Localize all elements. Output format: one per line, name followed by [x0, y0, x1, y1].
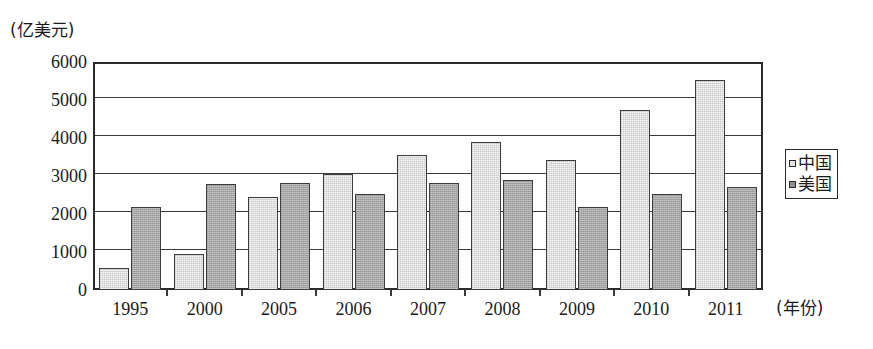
y-axis-tick-label: 6000: [13, 53, 87, 71]
x-axis-tick-label: 2005: [261, 300, 297, 318]
x-axis-tick-label: 2008: [484, 300, 520, 318]
x-axis-tick-label: 1995: [112, 300, 148, 318]
x-axis-tick-mark: [688, 290, 690, 296]
bar-chart-figure: (亿美元) 0100020003000400050006000 19952000…: [0, 0, 873, 349]
gridline: [95, 249, 761, 250]
x-axis-tick-mark: [241, 290, 243, 296]
legend-item-美国: 美国: [789, 174, 832, 195]
x-axis-tick-label: 2010: [633, 300, 669, 318]
x-axis-tick-mark: [390, 290, 392, 296]
y-axis-tick-label: 3000: [13, 167, 87, 185]
chart-legend: 中国美国: [785, 149, 838, 199]
y-axis-tick-label: 2000: [13, 205, 87, 223]
y-axis-tick-label: 1000: [13, 243, 87, 261]
x-axis-tick-mark: [539, 290, 541, 296]
x-axis-tick-label: 2009: [559, 300, 595, 318]
x-axis-tick-mark: [315, 290, 317, 296]
x-axis-tick-label: 2011: [708, 300, 743, 318]
x-axis-unit-label: (年份): [776, 300, 823, 317]
plot-area: [93, 62, 763, 290]
y-axis-tick-labels: 0100020003000400050006000: [9, 62, 87, 290]
legend-item-中国: 中国: [789, 153, 832, 174]
x-axis-tick-label: 2007: [410, 300, 446, 318]
gridline: [95, 135, 761, 136]
x-axis-tick-label: 2006: [336, 300, 372, 318]
x-axis-tick-label: 2000: [187, 300, 223, 318]
legend-item-label: 中国: [798, 155, 832, 172]
gridline: [95, 211, 761, 212]
y-axis-tick-label: 4000: [13, 129, 87, 147]
legend-swatch-light-icon: [789, 160, 796, 167]
gridline: [95, 173, 761, 174]
y-axis-tick-label: 5000: [13, 91, 87, 109]
x-axis-category-labels: 199520002005200620072008200920102011: [93, 300, 763, 330]
x-axis-tick-mark: [166, 290, 168, 296]
legend-swatch-dark-icon: [789, 181, 796, 188]
x-axis-tick-mark: [613, 290, 615, 296]
gridline: [95, 97, 761, 98]
x-axis-tick-marks: [93, 290, 763, 297]
x-axis-tick-mark: [464, 290, 466, 296]
y-axis-unit-label: (亿美元): [10, 22, 74, 39]
y-axis-tick-label: 0: [13, 281, 87, 299]
legend-item-label: 美国: [798, 176, 832, 193]
